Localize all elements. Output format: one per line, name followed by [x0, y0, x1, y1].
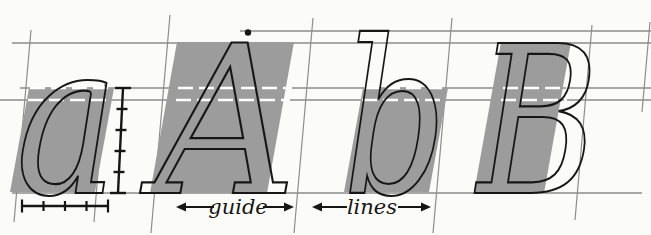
diagram-canvas: a A b B guide lines	[0, 0, 651, 235]
label-guide: guide	[208, 195, 268, 219]
letter-a-lowercase: a	[16, 0, 118, 235]
typography-diagram: a A b B guide lines	[0, 0, 651, 235]
letter-b-capital: B	[474, 2, 599, 235]
slant-guide-7	[642, 22, 650, 112]
nib-ladder-line	[118, 88, 123, 193]
apex-dot	[245, 29, 251, 35]
label-lines: lines	[347, 195, 397, 219]
letters-layer: a A b B	[16, 0, 599, 235]
measure-arrowhead-left	[312, 203, 322, 212]
measure-labels-layer: guide lines	[208, 195, 397, 219]
